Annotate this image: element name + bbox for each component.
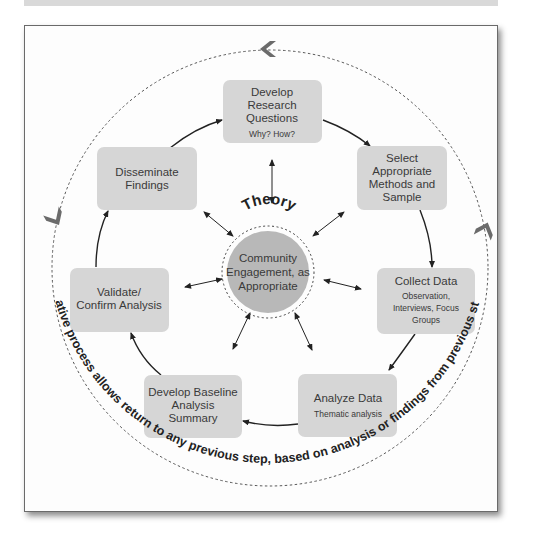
center-label-line1: Community [239, 252, 297, 264]
svg-text:Collect Data: Collect Data [395, 275, 458, 287]
svg-text:Methods and: Methods and [369, 178, 436, 190]
svg-text:Validate/: Validate/ [97, 286, 142, 298]
svg-text:Observation,: Observation, [402, 291, 450, 301]
svg-text:Thematic analysis: Thematic analysis [314, 409, 382, 419]
chevron-left-icon [260, 41, 276, 57]
svg-text:Confirm Analysis: Confirm Analysis [76, 299, 162, 311]
svg-text:Findings: Findings [125, 179, 169, 191]
step-select-methods: Select Appropriate Methods and Sample [357, 146, 447, 210]
theory-label: Theory [239, 190, 300, 214]
step-develop-research-questions: Develop Research Questions Why? How? [223, 80, 322, 143]
step-validate-confirm: Validate/ Confirm Analysis [70, 268, 169, 332]
svg-text:Appropriate: Appropriate [372, 165, 431, 177]
svg-text:Groups: Groups [412, 315, 440, 325]
svg-text:Why? How?: Why? How? [249, 129, 295, 139]
svg-text:Questions: Questions [246, 112, 298, 124]
svg-text:Analyze Data: Analyze Data [314, 392, 383, 404]
svg-text:Summary: Summary [168, 412, 217, 424]
center-label-line2: Engagement, as [226, 266, 310, 278]
svg-text:Research: Research [247, 99, 296, 111]
svg-text:Select: Select [386, 152, 419, 164]
step-disseminate-findings: Disseminate Findings [97, 147, 197, 210]
svg-text:Disseminate: Disseminate [115, 166, 178, 178]
center-label-line3: Appropriate [238, 280, 297, 292]
svg-text:Interviews, Focus: Interviews, Focus [393, 303, 459, 313]
svg-text:Develop Baseline: Develop Baseline [148, 386, 238, 398]
chevron-down-icon [43, 207, 67, 230]
svg-text:Develop: Develop [251, 86, 293, 98]
svg-text:Sample: Sample [383, 191, 422, 203]
research-cycle-diagram: Community Engagement, as Appropriate The… [0, 0, 549, 539]
svg-text:Analysis: Analysis [172, 399, 215, 411]
